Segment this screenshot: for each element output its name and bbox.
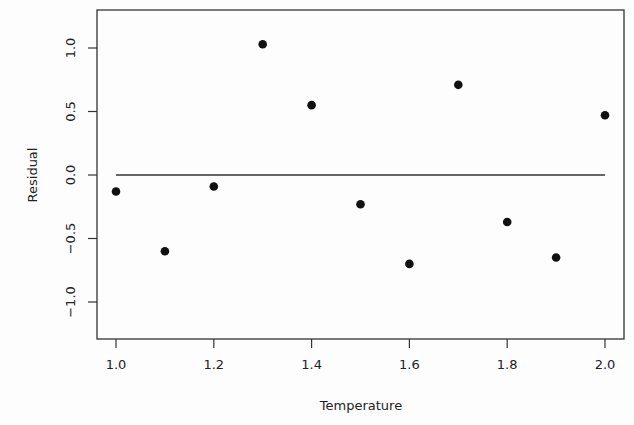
- y-tick-label: 1.0: [63, 38, 78, 59]
- x-axis-title: Temperature: [319, 398, 402, 413]
- x-tick-label: 1.0: [106, 357, 127, 372]
- y-axis: −1.0−0.50.00.51.0: [63, 38, 97, 318]
- data-point: [405, 260, 414, 269]
- x-tick-label: 2.0: [595, 357, 616, 372]
- x-axis: 1.01.21.41.61.82.0: [106, 339, 616, 372]
- x-tick-label: 1.8: [497, 357, 518, 372]
- y-tick-label: −1.0: [63, 286, 78, 318]
- data-point: [552, 253, 561, 262]
- data-point: [258, 40, 267, 49]
- residual-scatter-plot: 1.01.21.41.61.82.0 −1.0−0.50.00.51.0 Tem…: [0, 0, 634, 425]
- data-point: [356, 200, 365, 209]
- y-tick-label: −0.5: [63, 223, 78, 255]
- y-axis-title: Residual: [25, 148, 40, 203]
- data-point: [161, 247, 170, 256]
- x-tick-label: 1.6: [399, 357, 420, 372]
- x-tick-label: 1.2: [203, 357, 224, 372]
- data-point: [601, 111, 610, 120]
- data-point: [112, 187, 121, 196]
- y-tick-label: 0.0: [63, 165, 78, 186]
- data-point: [307, 101, 316, 110]
- data-point: [503, 218, 512, 227]
- x-tick-label: 1.4: [301, 357, 322, 372]
- data-point: [454, 81, 463, 90]
- data-point: [210, 182, 219, 191]
- y-tick-label: 0.5: [63, 101, 78, 122]
- data-points: [112, 40, 610, 268]
